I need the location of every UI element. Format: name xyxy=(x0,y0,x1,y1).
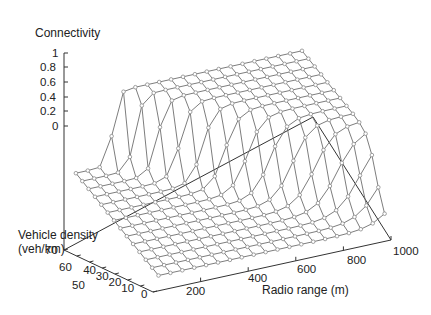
x-tick-600: 600 xyxy=(297,263,316,275)
z-tick-0.8: 0.8 xyxy=(40,61,56,73)
x-tick-1000: 1000 xyxy=(393,245,419,257)
y-tick-0: 0 xyxy=(141,288,147,300)
y-tick-30: 30 xyxy=(96,270,109,282)
z-tick-1: 1 xyxy=(52,47,58,59)
x-tick-200: 200 xyxy=(186,285,205,297)
z-tick-0: 0 xyxy=(52,120,58,132)
z-tick-0.4: 0.4 xyxy=(40,91,56,103)
axes xyxy=(64,53,391,292)
surface-mesh xyxy=(74,49,386,277)
y-tick-20: 20 xyxy=(109,276,122,288)
y-tick-10: 10 xyxy=(121,282,134,294)
z-tick-0.6: 0.6 xyxy=(40,76,56,88)
y-axis-label-line1: Vehicle density xyxy=(18,229,98,242)
z-tick-0.2: 0.2 xyxy=(40,105,56,117)
y-tick-50: 50 xyxy=(72,279,85,291)
x-tick-800: 800 xyxy=(347,254,366,266)
x-axis-label: Radio range (m) xyxy=(262,284,349,297)
z-axis-label: Connectivity xyxy=(35,27,100,40)
y-tick-60: 60 xyxy=(59,261,72,273)
y-tick-40: 40 xyxy=(83,264,96,276)
y-axis-label-line2: (veh/km) xyxy=(18,243,65,256)
